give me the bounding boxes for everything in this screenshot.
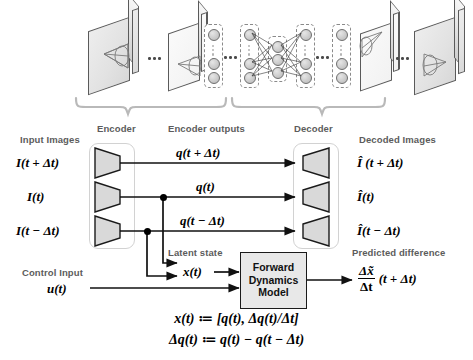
- fdm-line-3: Model: [258, 287, 288, 299]
- predicted-difference-fraction: Δx̃ Δt: [357, 264, 376, 293]
- fraction-numerator: Δx̃: [357, 264, 376, 277]
- label-control-input: Control Input: [22, 268, 83, 278]
- fdm-line-2: Dynamics: [249, 275, 299, 287]
- decoded-output-label-2: Î(t − Δt): [357, 224, 400, 237]
- signal-wiring: [0, 0, 473, 360]
- fdm-line-1: Forward: [253, 262, 294, 274]
- fraction-denominator: Δt: [358, 278, 374, 293]
- encoder-output-label-2: q(t − Δt): [180, 214, 225, 227]
- predicted-difference-symbol: Δx̃ Δt (t + Δt): [357, 264, 417, 293]
- junction-dot-qtminus: [144, 228, 151, 235]
- control-input-symbol: u(t): [47, 282, 67, 295]
- forward-dynamics-model-box: Forward Dynamics Model: [240, 252, 307, 309]
- junction-dot-qt: [160, 194, 167, 201]
- decoded-output-label-0: Î (t + Δt): [357, 156, 403, 169]
- equation-0: x(t) ≔ [q(t), Δq(t)/Δt]: [0, 312, 473, 326]
- equation-1: Δq(t) ≔ q(t) − q(t − Δt): [0, 333, 473, 347]
- input-label-0: I(t + Δt): [16, 156, 59, 169]
- encoder-output-label-0: q(t + Δt): [176, 146, 220, 159]
- input-label-2: I(t − Δt): [16, 224, 59, 237]
- encoder-output-label-1: q(t): [196, 180, 215, 193]
- predicted-difference-argument: (t + Δt): [379, 272, 417, 285]
- decoded-output-label-1: Î(t): [357, 190, 374, 203]
- figure-canvas: Encoder Encoder outputs Decoder Input Im…: [0, 0, 473, 360]
- input-label-1: I(t): [27, 190, 44, 203]
- label-latent-state: Latent state: [168, 248, 223, 258]
- label-predicted-difference: Predicted difference: [352, 248, 445, 258]
- latent-state-symbol: x(t): [183, 265, 202, 278]
